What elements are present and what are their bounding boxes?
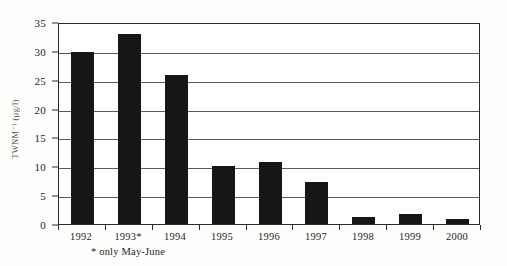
bar — [259, 162, 282, 224]
bar — [165, 75, 188, 224]
x-axis-tick-label: 1994 — [164, 231, 186, 243]
y-axis-tick-label: 15 — [35, 133, 46, 144]
y-axis-tick-label: 0 — [40, 220, 46, 231]
bar — [305, 182, 328, 224]
x-axis-tick-label: 1999 — [399, 231, 421, 243]
x-axis-tick-label: 1992 — [70, 231, 92, 243]
x-axis-tick-label: 1993* — [114, 231, 141, 243]
x-axis: 19921993*1994199519961997199819992000 — [58, 231, 480, 247]
x-axis-tick-label: 1997 — [305, 231, 327, 243]
y-axis-tick-label: 35 — [35, 18, 46, 29]
x-axis-tick-mark — [58, 225, 59, 230]
y-axis: 05101520253035 — [0, 0, 58, 266]
x-axis-tick-mark — [339, 225, 340, 230]
x-axis-tick-mark — [152, 225, 153, 230]
x-axis-tick-label: 1996 — [258, 231, 280, 243]
x-axis-tick-mark — [480, 225, 481, 230]
x-axis-tick-label: 1998 — [352, 231, 374, 243]
x-axis-tick-mark — [292, 225, 293, 230]
chart-figure: TWNM⁻¹ (µg/l) 05101520253035 19921993*19… — [0, 0, 507, 266]
x-axis-tick-label: 2000 — [446, 231, 468, 243]
bar — [399, 214, 422, 224]
bar — [446, 219, 469, 224]
y-axis-tick-label: 30 — [35, 46, 46, 57]
x-axis-tick-mark — [386, 225, 387, 230]
bar — [212, 166, 235, 224]
x-axis-tick-mark — [105, 225, 106, 230]
bar — [118, 34, 141, 224]
footnote-annotation: * only May-June — [91, 246, 165, 257]
x-axis-tick-mark — [433, 225, 434, 230]
y-axis-tick-label: 20 — [35, 104, 46, 115]
x-axis-tick-label: 1995 — [211, 231, 233, 243]
bar — [352, 217, 375, 225]
y-axis-tick-label: 5 — [40, 191, 46, 202]
y-axis-tick-label: 10 — [35, 162, 46, 173]
x-axis-tick-mark — [199, 225, 200, 230]
plot-area — [58, 23, 480, 225]
x-axis-tick-mark — [246, 225, 247, 230]
bar — [71, 52, 94, 224]
y-axis-tick-label: 25 — [35, 75, 46, 86]
